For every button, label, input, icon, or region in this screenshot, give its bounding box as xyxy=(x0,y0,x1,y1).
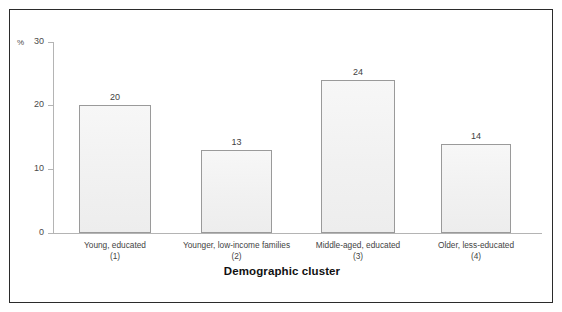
bar-middle-aged-educated[interactable] xyxy=(321,80,395,233)
bar-young-educated[interactable] xyxy=(79,105,151,233)
y-tick-mark-30 xyxy=(48,42,53,43)
category-label-3-number: (3) xyxy=(298,251,418,262)
y-tick-mark-20 xyxy=(48,105,53,106)
y-axis-line xyxy=(53,42,54,234)
category-label-1-number: (1) xyxy=(55,251,175,262)
chart-screenshot: % 30 20 10 0 20 Young, educated (1) xyxy=(0,0,562,312)
bar-younger-low-income-families[interactable] xyxy=(201,150,272,233)
category-label-2-number: (2) xyxy=(171,251,302,262)
y-tick-label-20: 20 xyxy=(20,100,44,109)
y-tick-label-0: 0 xyxy=(20,228,44,237)
figure-frame: % 30 20 10 0 20 Young, educated (1) xyxy=(9,9,553,303)
x-axis-title: Demographic cluster xyxy=(10,265,554,277)
bar-value-label-4: 14 xyxy=(441,131,511,141)
bar-older-less-educated[interactable] xyxy=(441,144,511,233)
y-tick-label-30: 30 xyxy=(20,37,44,46)
category-label-2: Younger, low-income families (2) xyxy=(171,240,302,261)
plot-area: % 30 20 10 0 20 Young, educated (1) xyxy=(10,10,554,304)
x-axis-baseline xyxy=(53,233,542,234)
category-label-4: Older, less-educated (4) xyxy=(419,240,533,261)
category-label-3-text: Middle-aged, educated xyxy=(316,240,400,250)
category-label-1-text: Young, educated xyxy=(84,240,146,250)
category-label-2-text: Younger, low-income families xyxy=(183,240,290,250)
category-label-3: Middle-aged, educated (3) xyxy=(298,240,418,261)
bar-value-label-2: 13 xyxy=(201,137,272,147)
y-tick-mark-10 xyxy=(48,169,53,170)
bar-value-label-1: 20 xyxy=(79,92,151,102)
y-tick-label-10: 10 xyxy=(20,164,44,173)
bar-value-label-3: 24 xyxy=(321,67,395,77)
category-label-4-number: (4) xyxy=(419,251,533,262)
category-label-1: Young, educated (1) xyxy=(55,240,175,261)
category-label-4-text: Older, less-educated xyxy=(438,240,514,250)
y-tick-mark-0 xyxy=(48,233,53,234)
